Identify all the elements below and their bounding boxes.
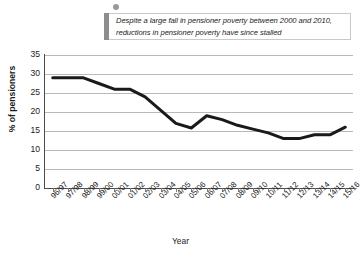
y-axis-tick-label: 5 (2, 163, 40, 173)
series-line (45, 55, 353, 188)
y-axis-tick-labels: 05101520253035 (0, 55, 40, 189)
callout-accent-bar (104, 13, 109, 40)
y-axis-title: % of pensioners (7, 44, 17, 154)
y-axis-tick-label: 0 (2, 182, 40, 192)
data-series-path (53, 78, 346, 139)
callout-dot-icon (113, 4, 119, 10)
callout-text: Despite a large fall in pensioner povert… (116, 15, 348, 38)
callout-annotation: Despite a large fall in pensioner povert… (104, 4, 353, 42)
x-axis-title: Year (0, 236, 361, 246)
chart-figure: Despite a large fall in pensioner povert… (0, 0, 361, 257)
